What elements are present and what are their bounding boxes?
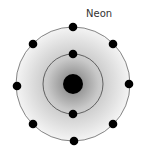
electron: [13, 82, 22, 91]
electron: [69, 110, 78, 119]
electron: [69, 50, 78, 59]
electron: [29, 120, 38, 129]
nucleus: [63, 74, 83, 94]
electron: [109, 120, 118, 129]
electron: [69, 23, 78, 32]
electron: [109, 40, 118, 49]
atom-diagram: [0, 0, 142, 155]
electron: [70, 137, 79, 146]
electron: [125, 80, 134, 89]
electron: [29, 40, 38, 49]
